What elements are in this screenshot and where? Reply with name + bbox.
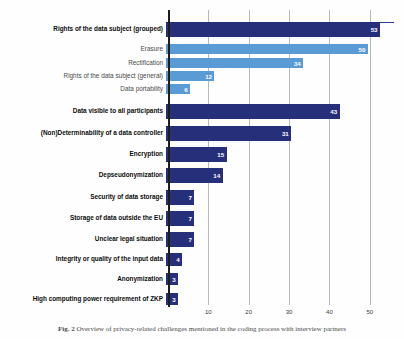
bar-value-label: 12 bbox=[205, 73, 212, 80]
bar[interactable]: 14 bbox=[166, 168, 223, 183]
bar-value-label: 14 bbox=[213, 172, 220, 179]
bar-value-label: 53 bbox=[371, 26, 378, 33]
bar-row: Data portability6 bbox=[0, 84, 404, 94]
bar-row-label: Storage of data outside the EU bbox=[0, 215, 166, 222]
x-tick-label: 40 bbox=[326, 309, 333, 315]
x-tick-label: 20 bbox=[245, 309, 252, 315]
x-tick-label: 50 bbox=[366, 309, 373, 315]
bar-row-label: Data visible to all participants bbox=[0, 108, 166, 115]
bar-track: 50 bbox=[166, 44, 404, 54]
bar-row-label: Data portability bbox=[0, 86, 166, 93]
bar-track: 3 bbox=[166, 293, 404, 305]
bar[interactable]: 53 bbox=[166, 22, 380, 37]
x-tick-label: 10 bbox=[205, 309, 212, 315]
bar-row: Integrity or quality of the input data4 bbox=[0, 253, 404, 266]
bar-row-label: Security of data storage bbox=[0, 194, 166, 201]
bar-track: 34 bbox=[166, 58, 404, 68]
bar-chart: Rights of the data subject (grouped)53Er… bbox=[0, 0, 404, 339]
bar-track: 14 bbox=[166, 168, 404, 183]
bar-row-label: Anonymization bbox=[0, 276, 166, 283]
bar-row-label: (Non)Determinability of a data controlle… bbox=[0, 130, 166, 137]
bar-value-label: 3 bbox=[172, 296, 175, 303]
bar-row: Rights of the data subject (grouped)53 bbox=[0, 22, 404, 37]
bar-track: 12 bbox=[166, 71, 404, 81]
bar-track: 7 bbox=[166, 232, 404, 247]
figure-number: Fig. 2 bbox=[58, 325, 75, 333]
bar-value-label: 7 bbox=[188, 215, 191, 222]
bar[interactable]: 6 bbox=[166, 84, 190, 94]
bar-row: Encryption15 bbox=[0, 147, 404, 162]
bar-row-label: Rectification bbox=[0, 60, 166, 67]
bar-row-label: Unclear legal situation bbox=[0, 236, 166, 243]
bar-track: 31 bbox=[166, 126, 404, 141]
bar-row: High computing power requirement of ZKP3 bbox=[0, 293, 404, 305]
bar-value-label: 7 bbox=[188, 236, 191, 243]
bar[interactable]: 7 bbox=[166, 232, 194, 247]
value-axis-line bbox=[168, 10, 170, 307]
bar[interactable]: 34 bbox=[166, 58, 303, 68]
bar[interactable]: 7 bbox=[166, 211, 194, 226]
bar-row: Erasure50 bbox=[0, 44, 404, 54]
bar-track: 53 bbox=[166, 22, 404, 37]
bar-value-label: 6 bbox=[184, 86, 187, 93]
bar-track: 4 bbox=[166, 253, 404, 266]
bar-row: Rights of the data subject (general)12 bbox=[0, 71, 404, 81]
bar[interactable]: 50 bbox=[166, 44, 368, 54]
bar-track: 43 bbox=[166, 104, 404, 119]
bar-value-label: 34 bbox=[294, 60, 301, 67]
bar-value-label: 4 bbox=[176, 256, 179, 263]
bar-row: Unclear legal situation7 bbox=[0, 232, 404, 247]
bar-row-label: Depseudonymization bbox=[0, 172, 166, 179]
bar-row-label: Rights of the data subject (general) bbox=[0, 73, 166, 80]
x-tick-label: 30 bbox=[286, 309, 293, 315]
bar-track: 7 bbox=[166, 190, 404, 205]
figure-caption-text: Overview of privacy-related challenges m… bbox=[76, 325, 346, 333]
bar[interactable]: 43 bbox=[166, 104, 340, 119]
bar-row: (Non)Determinability of a data controlle… bbox=[0, 126, 404, 141]
figure-caption: Fig. 2 Overview of privacy-related chall… bbox=[0, 325, 404, 333]
bar-track: 6 bbox=[166, 84, 404, 94]
bar-row: Depseudonymization14 bbox=[0, 168, 404, 183]
bar-row-label: Encryption bbox=[0, 151, 166, 158]
bar[interactable]: 15 bbox=[166, 147, 227, 162]
bar-row-label: Integrity or quality of the input data bbox=[0, 256, 166, 263]
bar-row: Storage of data outside the EU7 bbox=[0, 211, 404, 226]
bar-value-label: 15 bbox=[217, 151, 224, 158]
bar-value-label: 7 bbox=[188, 194, 191, 201]
bar-row: Security of data storage7 bbox=[0, 190, 404, 205]
bar-row-label: High computing power requirement of ZKP bbox=[0, 296, 166, 303]
bar-value-label: 31 bbox=[282, 130, 289, 137]
bar-value-label: 43 bbox=[330, 108, 337, 115]
bar-row-label: Erasure bbox=[0, 46, 166, 53]
bar-track: 7 bbox=[166, 211, 404, 226]
bar-row: Anonymization3 bbox=[0, 273, 404, 285]
bar-value-label: 50 bbox=[359, 46, 366, 53]
bar-row: Data visible to all participants43 bbox=[0, 104, 404, 119]
bar[interactable]: 31 bbox=[166, 126, 291, 141]
bar-row-label: Rights of the data subject (grouped) bbox=[0, 26, 166, 33]
bar-row: Rectification34 bbox=[0, 58, 404, 68]
bar[interactable]: 12 bbox=[166, 71, 214, 81]
bar-track: 15 bbox=[166, 147, 404, 162]
bar-track: 3 bbox=[166, 273, 404, 285]
bar[interactable]: 7 bbox=[166, 190, 194, 205]
bar-value-label: 3 bbox=[172, 276, 175, 283]
